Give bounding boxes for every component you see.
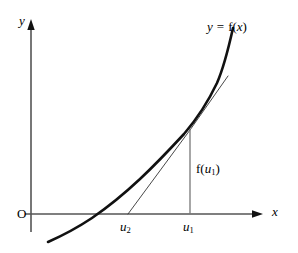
x-axis-arrowhead [252,210,263,218]
f-u1-segment-label: f(u1) [196,162,220,177]
tangent-line [128,76,228,214]
curve-label-y-part: y [207,19,213,34]
u1-subscript: 1 [190,225,194,235]
curve-label-equals-part: = [213,19,228,34]
x-axis-label: x [272,205,278,218]
fu1-suffix: ) [215,161,219,176]
fu1-prefix: f( [196,161,205,176]
curve-equation-label: y=f(x) [207,20,247,33]
y-axis-arrowhead [27,19,34,30]
curve-label-close-part: ) [243,19,247,34]
y-axis-label: y [19,14,25,27]
u1-axis-label: u1 [183,220,194,235]
figure-canvas [0,0,298,253]
u2-subscript: 2 [127,225,131,235]
newton-method-figure: y x O y=f(x) u2 u1 f(u1) [0,0,298,253]
function-curve [48,28,233,242]
curve-label-f-part: f( [228,19,237,34]
u2-axis-label: u2 [120,220,131,235]
origin-label: O [17,207,26,220]
